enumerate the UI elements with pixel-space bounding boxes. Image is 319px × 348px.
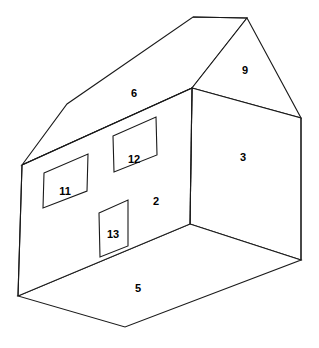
opening-label-window-left: 11 bbox=[59, 186, 71, 197]
opening-label-window-right: 12 bbox=[128, 154, 140, 165]
house-line-drawing bbox=[0, 0, 319, 348]
opening-label-door: 13 bbox=[107, 229, 119, 240]
house-diagram: 2 3 5 6 9 11 12 13 bbox=[0, 0, 319, 348]
face-label-gable: 9 bbox=[242, 65, 248, 76]
face-label-floor: 5 bbox=[135, 283, 141, 294]
face-label-front-wall: 2 bbox=[153, 196, 159, 207]
face-label-right-wall: 3 bbox=[240, 152, 246, 163]
face-label-roof-slope: 6 bbox=[131, 88, 137, 99]
